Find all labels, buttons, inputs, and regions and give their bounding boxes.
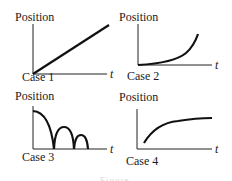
position-time-graph bbox=[0, 0, 116, 85]
panel-case-4: Position t Case 4 bbox=[116, 85, 232, 170]
x-axis-label: t bbox=[215, 143, 218, 155]
x-axis-label: t bbox=[110, 143, 113, 155]
figure-caption: Figure ... bbox=[100, 175, 143, 181]
panel-case-3: Position t Case 3 bbox=[0, 85, 116, 170]
position-time-graph bbox=[0, 85, 116, 181]
panel-case-2: Position t Case 2 bbox=[116, 0, 232, 85]
x-axis-label: t bbox=[110, 68, 113, 80]
case-caption: Case 3 bbox=[22, 151, 54, 163]
x-axis-label: t bbox=[215, 59, 218, 71]
case-caption: Case 1 bbox=[22, 71, 54, 83]
case-caption: Case 2 bbox=[127, 70, 159, 82]
case-caption: Case 4 bbox=[126, 155, 158, 167]
panel-case-1: Position t Case 1 bbox=[0, 0, 116, 85]
